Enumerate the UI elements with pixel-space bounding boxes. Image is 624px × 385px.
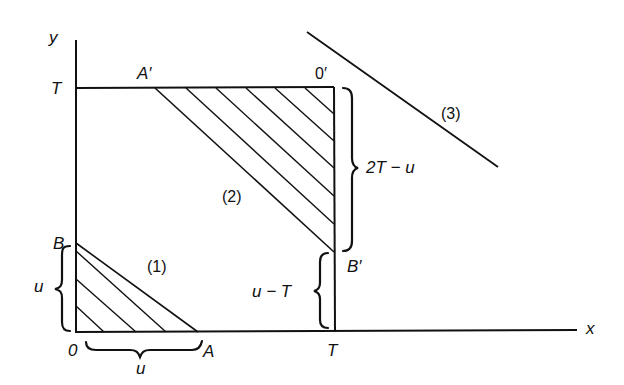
label-B: B <box>53 234 64 253</box>
brace-OA <box>86 341 202 357</box>
right-edge-x-equals-T <box>334 87 335 332</box>
label-brace-OB: u <box>34 277 44 296</box>
boundary-line-2 <box>155 88 334 252</box>
brace-B-prime-O-prime <box>343 88 358 251</box>
x-axis <box>76 330 577 332</box>
label-T-x: T <box>327 341 339 360</box>
label-brace-OA: u <box>136 359 146 378</box>
boundary-line-1 <box>76 243 198 332</box>
label-region-2: (2) <box>222 188 242 205</box>
hatching-region-2 <box>186 88 334 224</box>
probability-region-diagram: y x T A′ 0′ B B′ 0 A T (1) (2) (3) u u u… <box>0 0 624 385</box>
label-T-y: T <box>51 79 63 98</box>
top-edge-y-equals-T <box>76 87 334 88</box>
label-brace-TB-prime: u − T <box>252 282 293 301</box>
label-region-1: (1) <box>147 258 167 275</box>
y-axis-label: y <box>48 28 59 47</box>
label-A: A <box>202 342 214 361</box>
boundary-line-3 <box>307 32 498 167</box>
x-axis-label: x <box>585 319 595 338</box>
brace-T-B-prime <box>314 253 328 328</box>
brace-OB <box>55 246 70 331</box>
label-origin: 0 <box>68 341 78 360</box>
label-O-prime: 0′ <box>315 65 327 82</box>
label-region-3: (3) <box>441 105 461 122</box>
label-brace-B-prime-O-prime: 2T − u <box>365 158 415 177</box>
label-B-prime: B′ <box>347 257 362 276</box>
label-A-prime: A′ <box>136 64 152 83</box>
